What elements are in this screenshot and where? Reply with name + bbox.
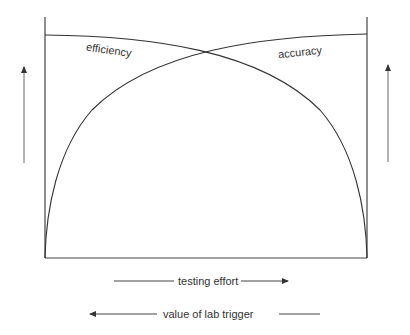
tradeoff-diagram: efficiency accuracy testing effort value… xyxy=(0,0,410,335)
value-of-lab-trigger-label: value of lab trigger xyxy=(163,308,254,320)
efficiency-label: efficiency xyxy=(85,41,132,59)
testing-effort-label: testing effort xyxy=(178,275,238,287)
efficiency-curve xyxy=(45,35,367,258)
accuracy-label: accuracy xyxy=(277,44,323,61)
accuracy-curve xyxy=(45,34,367,258)
